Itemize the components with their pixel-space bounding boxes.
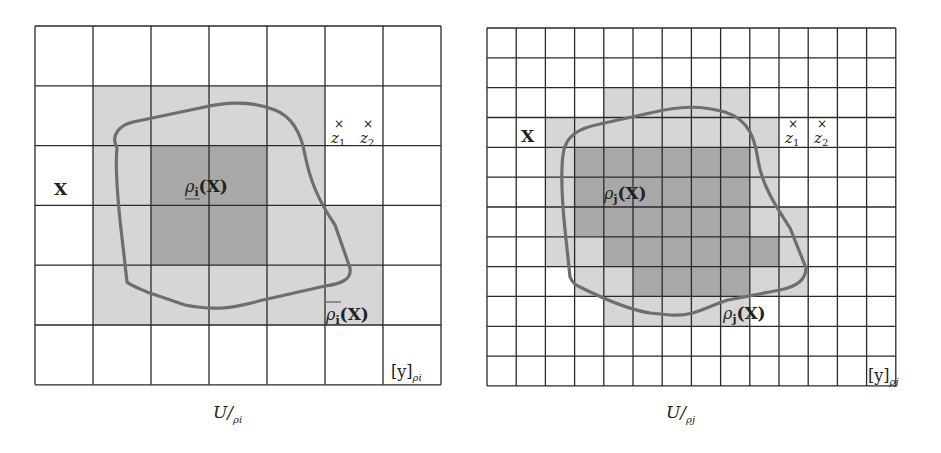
upper-approximation-cell [545, 177, 574, 207]
lower-approximation-cell [691, 207, 720, 237]
lower-approximation-cell [662, 147, 691, 177]
partition-grid [487, 28, 896, 386]
upper-approximation-cell [267, 265, 325, 325]
upper-approximation-cell [604, 88, 633, 118]
equivalence-class-label: [y]ρi [391, 362, 422, 383]
upper-approximation-cell [575, 237, 604, 267]
upper-approximation-cell [93, 265, 151, 325]
svg-text:ρj(X): ρj(X) [722, 303, 766, 326]
upper-approximation-cell [604, 267, 633, 297]
upper-approximation-cell [633, 117, 662, 147]
point-z2: × z2 [359, 117, 374, 148]
lower-approximation-cell [604, 147, 633, 177]
lower-approximation-cell [604, 207, 633, 237]
set-x-label: X [54, 179, 68, 199]
svg-text:z1: z1 [784, 129, 799, 148]
lower-approximation-cell [662, 177, 691, 207]
quotient-caption: U/ρi [213, 402, 242, 425]
upper-approximation-cell [545, 207, 574, 237]
lower-approximation-cell [209, 205, 267, 265]
lower-approximation-cell [721, 147, 750, 177]
lower-approximation-cell [633, 147, 662, 177]
lower-approximation-cell [691, 267, 720, 297]
upper-approximation-cell [209, 86, 267, 146]
equivalence-class-label: [y]ρj [868, 366, 899, 387]
upper-approximation-label: ρi(X) [325, 302, 369, 327]
upper-approximation-cell [267, 86, 325, 146]
upper-approximation-cell [691, 88, 720, 118]
lower-approximation-cell [721, 267, 750, 297]
upper-approximation-cell [267, 146, 325, 206]
upper-approximation-cell [545, 117, 574, 147]
lower-approximation-cell [633, 267, 662, 297]
upper-approximation-cell [545, 237, 574, 267]
right-panel: X ρj(X) ρj(X) × z1 × z2 [y]ρj U/ρj [487, 28, 899, 425]
upper-approximation-cell [325, 205, 383, 265]
point-z1: × z1 [330, 117, 345, 148]
lower-approximation-cell [633, 237, 662, 267]
svg-text:z1: z1 [330, 129, 345, 148]
lower-approximation-cell [691, 147, 720, 177]
lower-approximation-cell [721, 207, 750, 237]
svg-text:ρj(X): ρj(X) [603, 183, 647, 206]
svg-text:z2: z2 [813, 129, 828, 148]
svg-text:ρi(X): ρi(X) [325, 304, 369, 327]
upper-approximation-label: ρj(X) [722, 303, 766, 326]
lower-approximation-cell [662, 237, 691, 267]
lower-approximation-cell [575, 147, 604, 177]
set-x-label: X [521, 126, 535, 146]
lower-approximation-cell [575, 207, 604, 237]
upper-approximation-cell [662, 88, 691, 118]
point-z1: × z1 [784, 117, 799, 148]
upper-approximation-cell [209, 265, 267, 325]
lower-approximation-cell [151, 205, 209, 265]
upper-approximation-cell [545, 147, 574, 177]
upper-approximation-cell [721, 117, 750, 147]
upper-approximation-cell [93, 146, 151, 206]
upper-approximation-cell [779, 207, 808, 237]
point-z2: × z2 [813, 117, 828, 148]
upper-approximation-cell [691, 117, 720, 147]
lower-approximation-cell [721, 177, 750, 207]
upper-approximation-cell [750, 147, 779, 177]
rough-set-diagram: X ρi(X) ρi(X) × z1 × z2 [y]ρi U/ρi X ρj(… [0, 0, 941, 453]
lower-approximation-cell [662, 267, 691, 297]
partition-grid [35, 26, 441, 385]
svg-text:ρi(X): ρi(X) [184, 176, 228, 199]
upper-approximation-cell [662, 296, 691, 326]
upper-approximation-cell [662, 117, 691, 147]
lower-approximation-cell [750, 237, 779, 267]
svg-text:z2: z2 [359, 129, 374, 148]
upper-approximation-cell [267, 205, 325, 265]
quotient-caption: U/ρj [666, 402, 695, 425]
lower-approximation-label: ρj(X) [603, 183, 647, 206]
lower-approximation-cell [633, 207, 662, 237]
lower-approximation-label: ρi(X) [184, 176, 228, 199]
lower-approximation-cell [691, 177, 720, 207]
upper-approximation-cell [779, 267, 808, 297]
lower-approximation-cell [721, 237, 750, 267]
lower-approximation-cell [604, 237, 633, 267]
left-panel: X ρi(X) ρi(X) × z1 × z2 [y]ρi U/ρi [35, 26, 441, 425]
upper-approximation-cell [93, 86, 151, 146]
lower-approximation-cell [662, 207, 691, 237]
upper-approximation-cell [750, 207, 779, 237]
lower-approximation-cell [575, 177, 604, 207]
lower-approximation-cell [691, 237, 720, 267]
